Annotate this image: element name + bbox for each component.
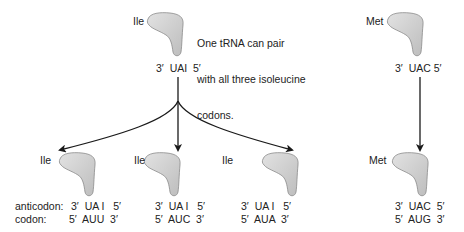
trna-met-bottom-shape (392, 153, 428, 196)
arrow-to-auu (60, 101, 178, 150)
amino-acid-label-ile-1: Ile (40, 154, 51, 166)
annotation-line-3: codons. (197, 109, 306, 121)
trna-ile-aua-shape (262, 153, 298, 196)
trna-ile-top-shape (147, 13, 183, 56)
codon-aua: 5′ AUA 3′ (241, 213, 289, 225)
amino-acid-label-ile-top: Ile (133, 15, 144, 27)
row-label-codon: codon: (15, 213, 47, 225)
trna-met-top-shape (387, 13, 423, 56)
anticodon-ile-top: 3′ UAI 5′ (156, 62, 201, 74)
amino-acid-label-met-bottom: Met (369, 154, 387, 166)
annotation-line-2: with all three isoleucine (197, 73, 306, 85)
amino-acid-label-met-top: Met (366, 15, 384, 27)
codon-auc: 5′ AUC 3′ (155, 213, 204, 225)
anticodon-2: 3′ UA I 5′ (155, 200, 205, 212)
trna-ile-auu-shape (59, 153, 95, 196)
trna-ile-auc-shape (144, 153, 180, 196)
codon-auu: 5′ AUU 3′ (69, 213, 118, 225)
amino-acid-label-ile-2: Ile (134, 154, 145, 166)
anticodon-3: 3′ UA I 5′ (241, 200, 291, 212)
anticodon-met-top: 3′ UAC 5′ (395, 62, 442, 74)
row-label-anticodon: anticodon: (15, 200, 63, 212)
annotation-note: One tRNA can pair with all three isoleuc… (197, 13, 306, 133)
codon-aug: 5′ AUG 3′ (395, 213, 444, 225)
annotation-line-1: One tRNA can pair (197, 37, 306, 49)
amino-acid-label-ile-3: Ile (222, 154, 233, 166)
anticodon-1: 3′ UA I 5′ (71, 200, 121, 212)
anticodon-met: 3′ UAC 5′ (395, 200, 444, 212)
